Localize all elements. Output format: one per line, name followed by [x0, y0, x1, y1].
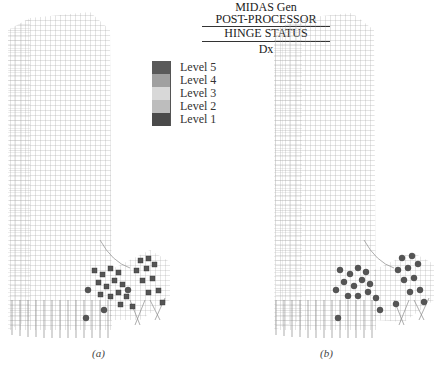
- legend-item-level-1: Level 1: [152, 113, 216, 126]
- structure-model-a: [0, 0, 200, 345]
- structure-model-b: [240, 0, 441, 345]
- panel-b: [240, 0, 441, 345]
- swatch-level-4: [152, 74, 171, 87]
- swatch-level-5: [152, 61, 171, 74]
- swatch-level-3: [152, 87, 171, 100]
- swatch-level-2: [152, 100, 171, 113]
- caption-b: (b): [320, 347, 333, 359]
- caption-a: (a): [92, 347, 105, 359]
- swatch-level-1: [152, 113, 171, 126]
- legend: Level 5 Level 4 Level 3 Level 2 Level 1: [152, 61, 216, 126]
- panel-a: [0, 0, 200, 345]
